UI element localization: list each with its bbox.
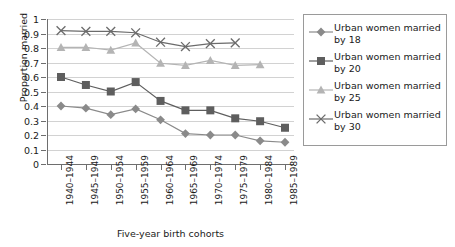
y-tick-label: 0.5 bbox=[24, 86, 39, 97]
data-point bbox=[231, 114, 239, 122]
y-tick-label: 0 bbox=[33, 159, 39, 170]
data-point bbox=[206, 56, 215, 64]
y-tick bbox=[41, 150, 46, 151]
series-1 bbox=[57, 102, 290, 147]
x-tick bbox=[185, 165, 186, 170]
legend-label-line2: by 18 bbox=[334, 34, 441, 46]
legend-item-1[interactable]: Urban women marriedby 18 bbox=[308, 22, 442, 45]
legend-label: Urban women marriedby 25 bbox=[334, 80, 441, 103]
x-tick-label: 1980–1984 bbox=[264, 155, 274, 205]
x-tick-label: 1970–1974 bbox=[214, 155, 224, 205]
data-point bbox=[82, 81, 90, 89]
x-tick bbox=[61, 165, 62, 170]
diamond-marker-icon bbox=[308, 23, 334, 35]
y-tick bbox=[41, 135, 46, 136]
y-tick bbox=[41, 164, 46, 165]
data-point bbox=[131, 105, 140, 114]
data-point bbox=[181, 106, 189, 114]
data-point bbox=[132, 78, 140, 86]
x-tick bbox=[136, 165, 137, 170]
data-point bbox=[81, 104, 90, 113]
y-tick-label: 0.3 bbox=[24, 115, 39, 126]
legend-label-line2: by 25 bbox=[334, 92, 441, 104]
data-point bbox=[281, 124, 289, 132]
plot-area: 00.10.20.30.40.50.60.70.80.91 bbox=[47, 19, 293, 164]
data-point bbox=[131, 39, 140, 47]
legend-item-2[interactable]: Urban women marriedby 20 bbox=[308, 51, 442, 74]
chart-container: Proportion married 00.10.20.30.40.50.60.… bbox=[0, 0, 455, 247]
y-tick-label: 0.6 bbox=[24, 72, 39, 83]
legend-item-3[interactable]: Urban women marriedby 25 bbox=[308, 80, 442, 103]
x-tick bbox=[235, 165, 236, 170]
x-tick bbox=[285, 165, 286, 170]
x-tick-label: 1940–1944 bbox=[65, 155, 75, 205]
legend-label: Urban women marriedby 30 bbox=[334, 109, 441, 132]
legend-label: Urban women marriedby 20 bbox=[334, 51, 441, 74]
data-point bbox=[106, 110, 115, 119]
data-point bbox=[107, 88, 115, 96]
y-tick-label: 0.1 bbox=[24, 144, 39, 155]
data-point bbox=[256, 136, 265, 145]
y-tick-label: 0.4 bbox=[24, 101, 39, 112]
data-point bbox=[206, 131, 215, 140]
data-point bbox=[181, 129, 190, 138]
x-tick-label: 1965–1969 bbox=[189, 155, 199, 205]
legend-label: Urban women marriedby 18 bbox=[334, 22, 441, 45]
y-tick bbox=[41, 63, 46, 64]
x-tick-label: 1945–1949 bbox=[90, 155, 100, 205]
data-point bbox=[157, 97, 165, 105]
legend-label-line2: by 30 bbox=[334, 121, 441, 133]
x-axis-title: Five-year birth cohorts bbox=[47, 228, 294, 239]
chart-legend: Urban women marriedby 18Urban women marr… bbox=[303, 14, 447, 146]
legend-item-4[interactable]: Urban women marriedby 30 bbox=[308, 109, 442, 132]
series-layer bbox=[47, 19, 293, 164]
legend-label-line1: Urban women married bbox=[334, 51, 441, 63]
x-tick bbox=[210, 165, 211, 170]
y-tick bbox=[41, 48, 46, 49]
x-tick bbox=[260, 165, 261, 170]
x-tick-label: 1975–1979 bbox=[239, 155, 249, 205]
data-point bbox=[281, 138, 290, 147]
x-tick bbox=[86, 165, 87, 170]
y-tick bbox=[41, 92, 46, 93]
series-2 bbox=[57, 73, 289, 132]
legend-label-line1: Urban women married bbox=[334, 109, 441, 121]
x-tick bbox=[111, 165, 112, 170]
data-point bbox=[57, 73, 65, 81]
data-point bbox=[231, 131, 240, 140]
y-tick bbox=[41, 77, 46, 78]
data-point bbox=[156, 115, 165, 124]
legend-label-line1: Urban women married bbox=[334, 22, 441, 34]
y-tick bbox=[41, 121, 46, 122]
legend-label-line2: by 20 bbox=[334, 63, 441, 75]
data-point bbox=[256, 117, 264, 125]
x-tick-label: 1950–1954 bbox=[115, 155, 125, 205]
square-marker-icon bbox=[308, 52, 334, 64]
y-tick-label: 0.2 bbox=[24, 130, 39, 141]
y-tick-label: 0.9 bbox=[24, 28, 39, 39]
y-tick-label: 1 bbox=[33, 14, 39, 25]
legend-label-line1: Urban women married bbox=[334, 80, 441, 92]
y-tick-label: 0.7 bbox=[24, 57, 39, 68]
y-tick bbox=[41, 106, 46, 107]
x-tick-label: 1985–1989 bbox=[289, 155, 299, 205]
x-tick-label: 1955–1959 bbox=[140, 155, 150, 205]
x-tick bbox=[161, 165, 162, 170]
y-tick bbox=[41, 19, 46, 20]
triangle-marker-icon bbox=[308, 81, 334, 93]
data-point bbox=[57, 102, 66, 111]
data-point bbox=[206, 106, 214, 114]
y-tick bbox=[41, 34, 46, 35]
x-tick-label: 1960–1964 bbox=[165, 155, 175, 205]
x-marker-icon bbox=[308, 110, 334, 122]
y-tick-label: 0.8 bbox=[24, 43, 39, 54]
